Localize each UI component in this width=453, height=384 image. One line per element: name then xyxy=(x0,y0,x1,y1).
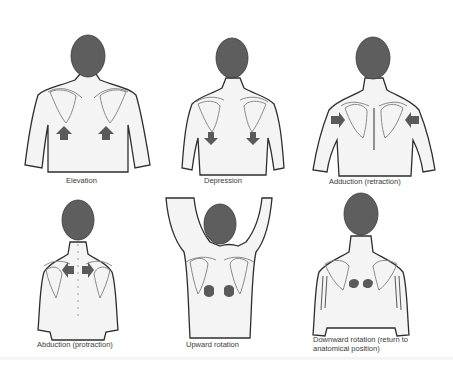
torso-elevation-illustration xyxy=(0,0,160,190)
rotation-arrow-icon xyxy=(204,285,214,297)
torso-downward-rotation-illustration xyxy=(293,180,453,350)
panel-upward-rotation: Upward rotation xyxy=(150,180,310,350)
head-icon xyxy=(216,38,248,78)
head-icon xyxy=(71,35,105,77)
caption-abduction: Abduction (protraction) xyxy=(37,340,113,349)
torso-upward-rotation-illustration xyxy=(150,180,310,350)
rotation-arrow-icon xyxy=(224,285,234,297)
torso-abduction-illustration xyxy=(0,180,160,350)
panel-elevation: Elevation xyxy=(0,0,160,190)
panel-depression: Depression xyxy=(150,0,310,190)
caption-upward-rotation: Upward rotation xyxy=(186,340,239,349)
head-icon xyxy=(356,37,390,79)
panel-adduction: Adduction (retraction) xyxy=(293,0,453,190)
panel-abduction: Abduction (protraction) xyxy=(0,180,160,350)
head-icon xyxy=(344,193,378,235)
caption-downward-rotation: Downward rotation (return to anatomical … xyxy=(313,335,433,353)
panel-downward-rotation: Downward rotation (return to anatomical … xyxy=(293,180,453,350)
torso-adduction-illustration xyxy=(293,0,453,190)
torso-depression-illustration xyxy=(150,0,310,190)
head-icon xyxy=(204,204,236,244)
page-edge-divider xyxy=(0,357,453,360)
head-icon xyxy=(62,200,94,240)
